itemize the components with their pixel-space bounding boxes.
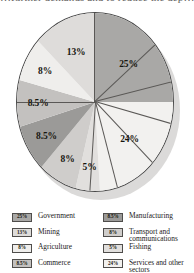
chart-legend: 25%Government13%Mining8%Agriculture8.5%C… [0,211,194,273]
legend-swatch: 13% [12,228,32,237]
clipped-body-text: …further demands and to reduce the dep… [0,0,194,9]
pie-slice-label: 8.5% [36,131,57,141]
pie-slice-label: 13% [67,47,86,57]
pie-slice-divider [94,13,95,102]
legend-item[interactable]: 5%Fishing [103,242,194,258]
legend-percent: 24% [108,261,118,266]
legend-label: Services and other sectors [129,258,193,273]
legend-percent: 8% [109,230,116,235]
pie-slice-label: 24% [120,134,139,144]
legend-swatch: 25% [12,213,32,222]
pie-chart-canvas: 25%24%5%8%8.5%8.5%8%13% [16,12,180,204]
legend-swatch: 8% [103,228,123,237]
pie-slice-label: 8.5% [28,98,49,108]
legend-percent: 5% [109,245,116,250]
legend-label: Agriculture [38,242,72,251]
legend-percent: 8.5% [16,261,27,266]
legend-swatch: 8.5% [103,213,123,222]
legend-swatch: 8.5% [12,259,32,268]
legend-column-left: 25%Government13%Mining8%Agriculture8.5%C… [12,211,104,273]
legend-swatch: 8% [12,244,32,253]
legend-percent: 8% [18,245,25,250]
legend-percent: 8.5% [107,214,118,219]
legend-percent: 13% [17,230,27,235]
legend-label: Commerce [38,258,70,267]
legend-percent: 25% [17,214,27,219]
clipped-body-text-line: …further demands and to reduce the dep… [0,0,194,3]
pie-chart: 25%24%5%8%8.5%8.5%8%13% [0,10,194,206]
legend-label: Government [38,211,75,220]
pie-slice-label: 25% [119,59,138,69]
pie-slice-label: 8% [61,154,75,164]
legend-label: Transport and communications [129,227,193,243]
pie-slice-label: 8% [38,66,52,76]
legend-label: Manufacturing [129,211,173,220]
legend-swatch: 5% [103,244,123,253]
pie-slice-label: 5% [83,162,97,172]
legend-item[interactable]: 8%Transport and communications [103,227,194,243]
legend-item[interactable]: 8%Agriculture [12,242,104,258]
legend-item[interactable]: 8.5%Manufacturing [103,211,194,227]
legend-item[interactable]: 13%Mining [12,227,104,243]
legend-column-right: 8.5%Manufacturing8%Transport and communi… [103,211,194,273]
legend-item[interactable]: 25%Government [12,211,104,227]
legend-swatch: 24% [103,259,123,268]
legend-label: Mining [38,227,60,236]
legend-item[interactable]: 24%Services and other sectors [103,258,194,273]
legend-label: Fishing [129,242,151,251]
legend-item[interactable]: 8.5%Commerce [12,258,104,273]
